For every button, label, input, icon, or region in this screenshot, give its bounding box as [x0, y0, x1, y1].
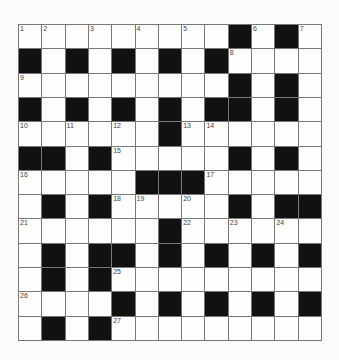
crossword-cell[interactable] — [182, 317, 204, 340]
crossword-cell[interactable]: 21 — [19, 219, 41, 242]
crossword-cell[interactable]: 16 — [19, 171, 41, 194]
crossword-cell[interactable] — [112, 219, 134, 242]
crossword-cell[interactable] — [159, 317, 181, 340]
crossword-cell[interactable] — [66, 195, 88, 218]
crossword-cell[interactable] — [136, 317, 158, 340]
crossword-cell[interactable] — [89, 49, 111, 72]
crossword-cell[interactable]: 24 — [275, 219, 297, 242]
crossword-cell[interactable]: 23 — [229, 219, 251, 242]
crossword-cell[interactable]: 7 — [299, 25, 321, 48]
crossword-cell[interactable] — [205, 268, 227, 291]
crossword-cell[interactable] — [275, 122, 297, 145]
crossword-cell[interactable] — [66, 292, 88, 315]
crossword-cell[interactable] — [229, 268, 251, 291]
crossword-cell[interactable] — [89, 74, 111, 97]
crossword-cell[interactable]: 1 — [19, 25, 41, 48]
crossword-cell[interactable] — [205, 195, 227, 218]
crossword-cell[interactable] — [112, 171, 134, 194]
crossword-cell[interactable] — [299, 317, 321, 340]
crossword-cell[interactable]: 8 — [229, 49, 251, 72]
crossword-cell[interactable] — [275, 49, 297, 72]
crossword-cell[interactable] — [205, 25, 227, 48]
crossword-cell[interactable] — [182, 292, 204, 315]
crossword-cell[interactable] — [205, 74, 227, 97]
crossword-cell[interactable] — [182, 268, 204, 291]
crossword-cell[interactable] — [229, 317, 251, 340]
crossword-cell[interactable] — [275, 171, 297, 194]
crossword-cell[interactable]: 27 — [112, 317, 134, 340]
crossword-cell[interactable] — [136, 268, 158, 291]
crossword-cell[interactable] — [252, 317, 274, 340]
crossword-cell[interactable] — [66, 219, 88, 242]
crossword-cell[interactable] — [136, 122, 158, 145]
crossword-cell[interactable] — [66, 74, 88, 97]
crossword-cell[interactable] — [89, 98, 111, 121]
crossword-cell[interactable] — [89, 219, 111, 242]
crossword-cell[interactable] — [19, 317, 41, 340]
crossword-cell[interactable]: 10 — [19, 122, 41, 145]
crossword-cell[interactable] — [229, 292, 251, 315]
crossword-cell[interactable]: 22 — [182, 219, 204, 242]
crossword-cell[interactable] — [159, 195, 181, 218]
crossword-cell[interactable] — [112, 25, 134, 48]
crossword-cell[interactable] — [159, 147, 181, 170]
crossword-cell[interactable] — [66, 147, 88, 170]
crossword-cell[interactable]: 6 — [252, 25, 274, 48]
crossword-cell[interactable]: 26 — [19, 292, 41, 315]
crossword-cell[interactable] — [136, 219, 158, 242]
crossword-cell[interactable] — [89, 122, 111, 145]
crossword-cell[interactable] — [299, 268, 321, 291]
crossword-cell[interactable] — [275, 244, 297, 267]
crossword-cell[interactable] — [182, 49, 204, 72]
crossword-cell[interactable] — [136, 292, 158, 315]
crossword-cell[interactable] — [66, 244, 88, 267]
crossword-cell[interactable] — [299, 49, 321, 72]
crossword-cell[interactable] — [136, 49, 158, 72]
crossword-cell[interactable] — [252, 268, 274, 291]
crossword-cell[interactable] — [229, 171, 251, 194]
crossword-cell[interactable] — [66, 25, 88, 48]
crossword-cell[interactable]: 3 — [89, 25, 111, 48]
crossword-cell[interactable]: 14 — [205, 122, 227, 145]
crossword-cell[interactable] — [42, 74, 64, 97]
crossword-cell[interactable] — [19, 195, 41, 218]
crossword-cell[interactable]: 9 — [19, 74, 41, 97]
crossword-cell[interactable] — [159, 268, 181, 291]
crossword-cell[interactable] — [275, 317, 297, 340]
crossword-cell[interactable] — [252, 195, 274, 218]
crossword-cell[interactable] — [299, 74, 321, 97]
crossword-cell[interactable] — [252, 49, 274, 72]
crossword-cell[interactable]: 15 — [112, 147, 134, 170]
crossword-cell[interactable] — [42, 49, 64, 72]
crossword-cell[interactable] — [205, 219, 227, 242]
crossword-cell[interactable] — [252, 147, 274, 170]
crossword-cell[interactable] — [229, 244, 251, 267]
crossword-cell[interactable] — [205, 317, 227, 340]
crossword-cell[interactable] — [42, 219, 64, 242]
crossword-cell[interactable]: 5 — [182, 25, 204, 48]
crossword-cell[interactable] — [182, 147, 204, 170]
crossword-cell[interactable] — [89, 292, 111, 315]
crossword-cell[interactable] — [136, 244, 158, 267]
crossword-cell[interactable] — [66, 317, 88, 340]
crossword-cell[interactable] — [42, 292, 64, 315]
crossword-cell[interactable] — [182, 98, 204, 121]
crossword-cell[interactable] — [89, 171, 111, 194]
crossword-cell[interactable] — [252, 171, 274, 194]
crossword-cell[interactable] — [299, 147, 321, 170]
crossword-cell[interactable] — [275, 268, 297, 291]
crossword-cell[interactable] — [252, 219, 274, 242]
crossword-cell[interactable] — [19, 244, 41, 267]
crossword-cell[interactable] — [252, 98, 274, 121]
crossword-cell[interactable]: 12 — [112, 122, 134, 145]
crossword-cell[interactable] — [299, 219, 321, 242]
crossword-cell[interactable] — [136, 98, 158, 121]
crossword-cell[interactable]: 13 — [182, 122, 204, 145]
crossword-cell[interactable]: 20 — [182, 195, 204, 218]
crossword-cell[interactable] — [19, 268, 41, 291]
crossword-cell[interactable] — [275, 292, 297, 315]
crossword-cell[interactable] — [205, 147, 227, 170]
crossword-cell[interactable] — [299, 98, 321, 121]
crossword-cell[interactable] — [159, 25, 181, 48]
crossword-cell[interactable] — [252, 74, 274, 97]
